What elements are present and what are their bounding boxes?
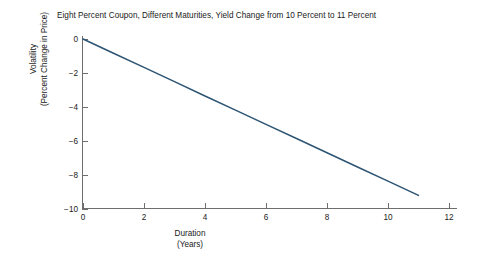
volatility-line — [83, 39, 419, 195]
series-plot — [0, 0, 490, 275]
chart-figure: Eight Percent Coupon, Different Maturiti… — [0, 0, 490, 275]
